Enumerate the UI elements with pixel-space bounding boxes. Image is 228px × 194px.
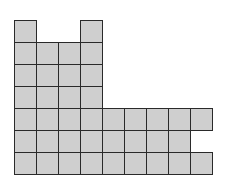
grid-square — [80, 152, 103, 175]
grid-square — [36, 108, 59, 131]
grid-square — [168, 152, 191, 175]
grid-square — [58, 152, 81, 175]
grid-square — [80, 42, 103, 65]
grid-square — [14, 86, 37, 109]
grid-square — [80, 130, 103, 153]
grid-square — [146, 130, 169, 153]
grid-square — [80, 20, 103, 43]
grid-square — [102, 108, 125, 131]
grid-square — [58, 42, 81, 65]
grid-square — [36, 64, 59, 87]
grid-square — [190, 108, 213, 131]
grid-square — [58, 130, 81, 153]
grid-square — [14, 130, 37, 153]
grid-square — [80, 108, 103, 131]
grid-square — [14, 108, 37, 131]
grid-square — [80, 86, 103, 109]
grid-square — [124, 130, 147, 153]
grid-square — [58, 108, 81, 131]
square-grid-figure — [0, 0, 228, 194]
grid-square — [146, 152, 169, 175]
grid-square — [102, 130, 125, 153]
grid-square — [36, 152, 59, 175]
grid-square — [58, 86, 81, 109]
grid-square — [80, 64, 103, 87]
grid-square — [36, 130, 59, 153]
grid-square — [14, 152, 37, 175]
grid-square — [58, 64, 81, 87]
grid-square — [36, 86, 59, 109]
grid-square — [168, 130, 191, 153]
grid-square — [14, 42, 37, 65]
grid-square — [124, 152, 147, 175]
grid-square — [124, 108, 147, 131]
grid-square — [190, 152, 213, 175]
grid-square — [36, 42, 59, 65]
grid-square — [102, 152, 125, 175]
grid-square — [168, 108, 191, 131]
grid-square — [14, 64, 37, 87]
grid-square — [14, 20, 37, 43]
grid-square — [146, 108, 169, 131]
